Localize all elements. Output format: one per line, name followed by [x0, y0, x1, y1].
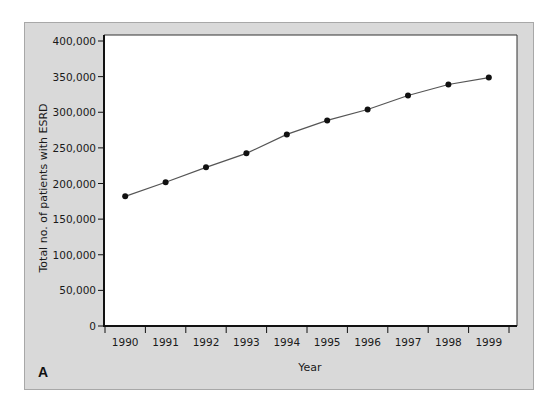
data-point-marker — [203, 164, 209, 170]
y-tick-label: 150,000 — [53, 213, 96, 225]
y-axis-title: Total no. of patients with ESRD — [37, 103, 50, 273]
y-tick-label: 200,000 — [53, 178, 96, 190]
x-tick-label: 1996 — [354, 336, 381, 348]
data-point-marker — [365, 106, 371, 112]
line-chart: 050,000100,000150,000200,000250,000300,0… — [0, 0, 549, 412]
y-axis-ticks: 050,000100,000150,000200,000250,000300,0… — [53, 35, 104, 332]
x-tick-label: 1992 — [193, 336, 220, 348]
y-tick-label: 0 — [89, 320, 96, 332]
data-point-marker — [405, 93, 411, 99]
y-tick-label: 300,000 — [53, 106, 96, 118]
x-tick-label: 1997 — [395, 336, 422, 348]
y-tick-label: 100,000 — [53, 249, 96, 261]
x-tick-label: 1999 — [475, 336, 502, 348]
x-tick-label: 1991 — [152, 336, 179, 348]
x-tick-label: 1994 — [273, 336, 300, 348]
data-point-marker — [284, 131, 290, 137]
y-tick-label: 250,000 — [53, 142, 96, 154]
x-tick-label: 1993 — [233, 336, 260, 348]
x-tick-label: 1995 — [314, 336, 341, 348]
y-tick-label: 400,000 — [53, 35, 96, 47]
x-tick-label: 1990 — [112, 336, 139, 348]
data-point-marker — [122, 193, 128, 199]
data-point-marker — [243, 150, 249, 156]
y-tick-label: 50,000 — [59, 284, 96, 296]
data-point-marker — [324, 117, 330, 123]
data-point-marker — [445, 82, 451, 88]
x-axis-ticks: 1990199119921993199419951996199719981999 — [105, 326, 509, 348]
x-axis-title: Year — [297, 361, 322, 374]
panel-letter: A — [38, 364, 48, 380]
y-tick-label: 350,000 — [53, 71, 96, 83]
x-tick-label: 1998 — [435, 336, 462, 348]
data-point-marker — [486, 75, 492, 81]
data-point-marker — [163, 179, 169, 185]
